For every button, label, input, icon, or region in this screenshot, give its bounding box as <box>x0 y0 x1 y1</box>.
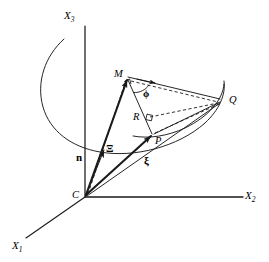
point-label-P: P <box>155 136 161 147</box>
point-label-Q: Q <box>229 95 237 106</box>
axis-label-x3: X3 <box>64 10 74 24</box>
vector-label-xi: ξ <box>144 155 149 166</box>
bowl-outline <box>41 39 225 154</box>
geometry-figure: X3 X2 X1 C M R P Q n Ξ ξ ϕ <box>0 0 269 262</box>
point-label-M: M <box>114 69 123 80</box>
vectors-from-origin <box>86 80 220 196</box>
axis-label-x2: X2 <box>245 190 255 204</box>
vector-label-n: n <box>76 152 82 163</box>
phi-direction-arrow <box>137 79 155 83</box>
paraboloid-surface <box>41 39 225 154</box>
right-angle-at-R <box>146 114 153 121</box>
axis-label-x1: X1 <box>12 240 22 254</box>
vector-label-Xi: Ξ <box>106 143 113 154</box>
angle-label-phi: ϕ <box>143 89 149 99</box>
segment-R-Q <box>150 103 218 117</box>
axis-x1 <box>26 197 85 238</box>
point-label-C: C <box>72 190 79 201</box>
figure-canvas <box>0 0 269 262</box>
point-label-R: R <box>133 112 139 123</box>
